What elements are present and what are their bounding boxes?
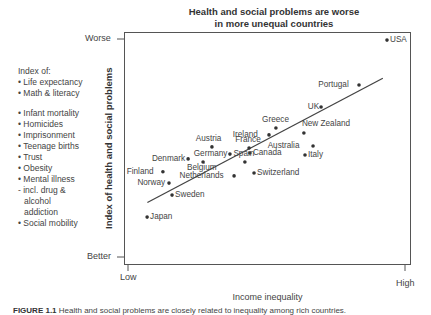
point-label: Finland bbox=[127, 167, 154, 176]
point-label: Denmark bbox=[152, 154, 185, 163]
point-label: Switzerland bbox=[257, 168, 299, 177]
point-label: Greece bbox=[262, 115, 289, 124]
data-point-denmark bbox=[186, 157, 190, 161]
figure-caption: FIGURE 1.1 Health and social problems ar… bbox=[13, 306, 346, 315]
data-point-ireland bbox=[267, 133, 271, 137]
point-label: Belgium bbox=[187, 163, 217, 172]
data-point-germany bbox=[228, 152, 232, 156]
caption-text: Health and social problems are closely r… bbox=[59, 306, 346, 315]
point-label: Portugal bbox=[318, 80, 349, 89]
point-label: New Zealand bbox=[302, 119, 350, 128]
data-point-italy bbox=[303, 153, 307, 157]
point-label: Norway bbox=[137, 178, 165, 187]
data-point-switzerland bbox=[252, 171, 256, 175]
x-tick-high: High bbox=[396, 278, 415, 288]
data-point-new-zealand bbox=[302, 131, 306, 135]
data-point-uk bbox=[319, 105, 323, 109]
point-label: Spain bbox=[233, 149, 254, 158]
point-label: UK bbox=[308, 102, 319, 111]
x-axis-title: Income inequality bbox=[124, 292, 411, 302]
point-label: Austria bbox=[196, 134, 221, 143]
data-point-netherlands bbox=[232, 174, 236, 178]
point-label: Netherlands bbox=[179, 171, 223, 180]
caption-label: FIGURE 1.1 bbox=[13, 306, 57, 315]
x-tick-low: Low bbox=[120, 272, 137, 282]
data-point-usa bbox=[385, 38, 389, 42]
point-label: France bbox=[235, 135, 260, 144]
data-point-australia bbox=[311, 144, 315, 148]
point-label: Sweden bbox=[175, 190, 205, 199]
data-point-greece bbox=[274, 126, 278, 130]
point-label: Italy bbox=[308, 150, 323, 159]
data-point-sweden bbox=[170, 193, 174, 197]
point-label: Germany bbox=[194, 149, 228, 158]
data-point-spain bbox=[243, 160, 247, 164]
trend-line bbox=[147, 78, 382, 202]
data-point-portugal bbox=[357, 83, 361, 87]
data-point-japan bbox=[145, 215, 149, 219]
data-point-finland bbox=[161, 170, 165, 174]
point-label: Japan bbox=[150, 212, 172, 221]
data-point-norway bbox=[167, 181, 171, 185]
point-label: Australia bbox=[268, 141, 300, 150]
point-label: USA bbox=[390, 35, 407, 44]
